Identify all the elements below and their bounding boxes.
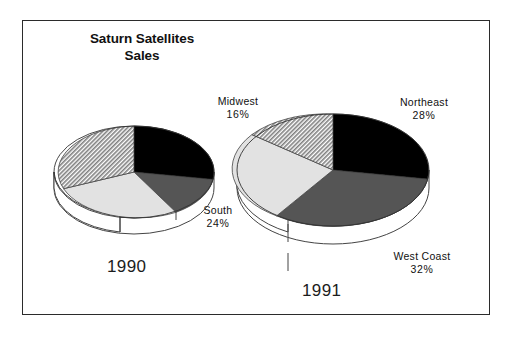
year-label-1990: 1990 (107, 257, 146, 277)
label-south: South 24% (186, 204, 250, 230)
label-northeast-pct: 28% (376, 109, 472, 122)
label-northeast-name: Northeast (400, 96, 448, 108)
label-midwest: Midwest 16% (196, 95, 280, 121)
chart-figure: Saturn Satellites Sales (0, 0, 507, 339)
label-south-name: South (204, 204, 233, 216)
pie-1991-wedges (232, 114, 428, 226)
chart-title-line-1: Saturn Satellites (52, 30, 232, 47)
label-westcoast-pct: 32% (372, 263, 472, 276)
label-midwest-pct: 16% (196, 108, 280, 121)
wedge-1990-northeast (134, 126, 214, 179)
label-westcoast: West Coast 32% (372, 250, 472, 276)
label-westcoast-name: West Coast (393, 250, 450, 262)
label-northeast: Northeast 28% (376, 96, 472, 122)
wedge-1991-northeast (333, 114, 429, 179)
label-midwest-name: Midwest (218, 95, 259, 107)
chart-title: Saturn Satellites Sales (52, 30, 232, 65)
chart-title-line-2: Sales (52, 47, 232, 64)
year-label-1991: 1991 (302, 281, 341, 301)
label-south-pct: 24% (186, 217, 250, 230)
